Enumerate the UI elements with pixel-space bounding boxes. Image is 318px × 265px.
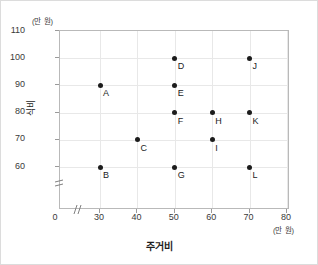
gridline-vertical bbox=[212, 31, 213, 208]
x-axis-tick-label: 40 bbox=[121, 213, 151, 222]
y-axis-tick-mark bbox=[55, 30, 59, 31]
y-axis-tick-label: 70 bbox=[0, 134, 25, 143]
data-point-label: C bbox=[140, 144, 147, 153]
x-axis-tick-mark bbox=[136, 209, 137, 213]
gridline-vertical bbox=[287, 31, 288, 208]
x-axis-tick-mark bbox=[211, 209, 212, 213]
data-point-label: H bbox=[215, 117, 222, 126]
data-point bbox=[135, 137, 140, 142]
data-point bbox=[172, 56, 177, 61]
x-axis-unit-label: (만 원) bbox=[273, 227, 294, 235]
x-axis-origin-label: 0 bbox=[45, 213, 65, 222]
data-point bbox=[247, 56, 252, 61]
data-point bbox=[172, 83, 177, 88]
y-axis-tick-label: 110 bbox=[0, 26, 25, 35]
y-axis-tick-label: 80 bbox=[0, 107, 25, 116]
y-axis-break-icon bbox=[53, 179, 65, 193]
data-point-label: B bbox=[103, 171, 109, 180]
gridline-vertical bbox=[100, 31, 101, 208]
y-axis-tick-label: 60 bbox=[0, 162, 25, 171]
data-point bbox=[172, 165, 177, 170]
y-axis-tick-mark bbox=[55, 166, 59, 167]
x-axis-tick-mark bbox=[286, 209, 287, 213]
plot-area: ABCDEFGHIJKL bbox=[59, 30, 289, 209]
x-axis-tick-mark bbox=[174, 209, 175, 213]
data-point-label: D bbox=[178, 62, 185, 71]
y-axis-tick-mark bbox=[55, 84, 59, 85]
data-point bbox=[172, 110, 177, 115]
data-point-label: J bbox=[253, 62, 258, 71]
x-axis-tick-label: 70 bbox=[234, 213, 264, 222]
data-point-label: A bbox=[103, 89, 109, 98]
y-axis-tick-mark bbox=[55, 57, 59, 58]
data-point-label: L bbox=[253, 171, 258, 180]
data-point bbox=[98, 165, 103, 170]
x-axis-break-icon bbox=[71, 202, 83, 216]
x-axis-tick-label: 50 bbox=[159, 213, 189, 222]
data-point-label: G bbox=[178, 171, 185, 180]
data-point bbox=[98, 83, 103, 88]
x-axis-title: 주거비 bbox=[1, 241, 317, 252]
y-axis-title: 식비 bbox=[26, 100, 36, 116]
scatter-plot-figure: (만 원) 식비 ABCDEFGHIJKL 0 (만 원) 주거비 607080… bbox=[0, 0, 318, 265]
data-point bbox=[247, 110, 252, 115]
data-point bbox=[210, 110, 215, 115]
x-axis-tick-label: 80 bbox=[271, 213, 301, 222]
data-point bbox=[210, 137, 215, 142]
x-axis-tick-mark bbox=[249, 209, 250, 213]
x-axis-tick-mark bbox=[99, 209, 100, 213]
data-point-label: I bbox=[215, 144, 218, 153]
gridline-vertical bbox=[137, 31, 138, 208]
x-axis-tick-label: 30 bbox=[84, 213, 114, 222]
data-point-label: F bbox=[178, 117, 184, 126]
data-point-label: K bbox=[253, 117, 259, 126]
x-axis-tick-label: 60 bbox=[196, 213, 226, 222]
data-point bbox=[247, 165, 252, 170]
y-axis-tick-label: 100 bbox=[0, 53, 25, 62]
y-axis-tick-mark bbox=[55, 112, 59, 113]
y-axis-tick-label: 90 bbox=[0, 80, 25, 89]
y-axis-unit-label: (만 원) bbox=[32, 18, 53, 26]
data-point-label: E bbox=[178, 89, 184, 98]
y-axis-tick-mark bbox=[55, 139, 59, 140]
